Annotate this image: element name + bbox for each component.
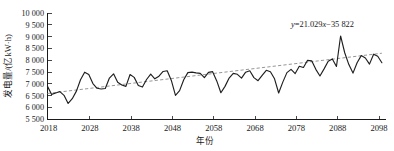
x-tick-label: 2088	[329, 123, 346, 133]
x-tick-label: 2078	[288, 123, 305, 133]
y-tick-label: 9 000	[26, 33, 44, 42]
y-tick-marks	[48, 13, 52, 119]
x-tick-label: 2038	[123, 123, 140, 133]
x-tick-label: 2028	[81, 123, 98, 133]
equation-coefficient: =21.029	[295, 20, 323, 29]
y-tick-label: 8 500	[26, 44, 44, 53]
y-tick-labels: 10 000 9 500 9 000 8 500 8 000 7 500 7 0…	[21, 9, 44, 124]
y-tick-label: 6 500	[26, 92, 44, 101]
x-tick-label: 2098	[370, 123, 387, 133]
x-tick-label: 2058	[205, 123, 222, 133]
x-tick-label: 2068	[247, 123, 264, 133]
y-tick-label: 9 500	[26, 21, 44, 30]
x-axis-title: 年份	[196, 135, 214, 146]
y-axis-title: 发电量/(亿kW·h)	[2, 34, 13, 98]
y-tick-label: 7 000	[26, 80, 44, 89]
data-series-line	[48, 36, 382, 103]
y-tick-label: 8 000	[26, 56, 44, 65]
equation-intercept: −35 822	[326, 20, 354, 29]
line-chart-figure: 发电量/(亿kW·h) 10 000 9 500 9 000 8 500 8 0…	[0, 0, 394, 151]
y-tick-label: 10 000	[21, 9, 44, 18]
x-tick-marks	[90, 116, 379, 120]
trend-equation-label: y=21.029x−35 822	[290, 20, 354, 29]
x-tick-label: 2018	[40, 123, 57, 133]
y-tick-label: 7 500	[26, 68, 44, 77]
x-tick-label: 2048	[164, 123, 181, 133]
x-tick-labels: 2018 2028 2038 2048 2058 2068 2078 2088 …	[40, 123, 388, 133]
y-tick-label: 6 000	[26, 103, 44, 112]
chart-container: 发电量/(亿kW·h) 10 000 9 500 9 000 8 500 8 0…	[0, 0, 394, 151]
